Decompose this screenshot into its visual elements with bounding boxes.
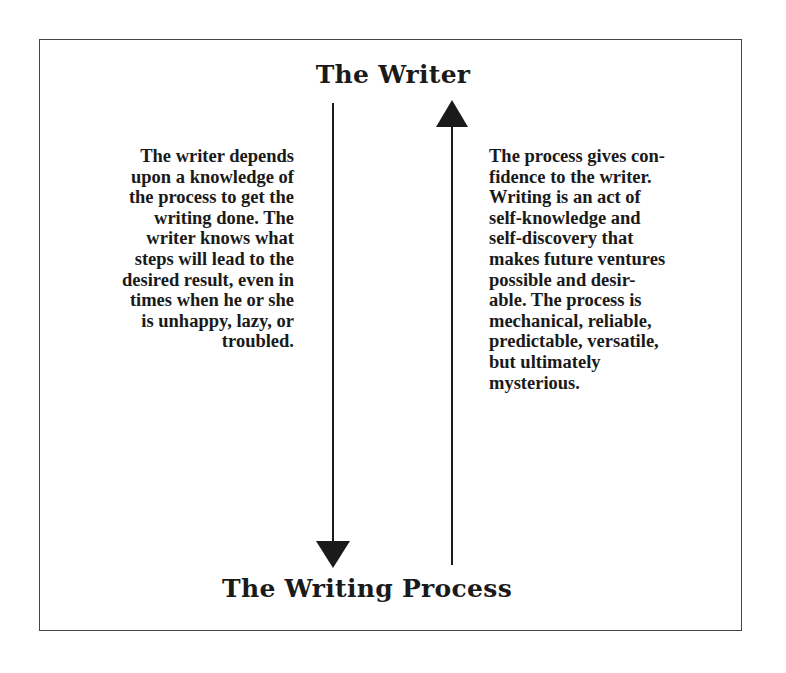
- text-line: writing done. The: [60, 208, 294, 229]
- text-line: troubled.: [60, 331, 294, 352]
- text-line: possible and desir-: [489, 270, 739, 291]
- right-description: The process gives con- fidence to the wr…: [489, 146, 739, 393]
- text-line: makes future ventures: [489, 249, 739, 270]
- text-line: mysterious.: [489, 373, 739, 394]
- text-line: The process gives con-: [489, 146, 739, 167]
- text-line: Writing is an act of: [489, 187, 739, 208]
- text-line: upon a knowledge of: [60, 167, 294, 188]
- up-arrow-icon: [436, 100, 468, 565]
- text-line: able. The process is: [489, 290, 739, 311]
- text-line: but ultimately: [489, 352, 739, 373]
- text-line: mechanical, reliable,: [489, 311, 739, 332]
- down-arrow-icon: [316, 103, 350, 568]
- text-line: desired result, even in: [60, 270, 294, 291]
- text-line: predictable, versatile,: [489, 331, 739, 352]
- text-line: self-knowledge and: [489, 208, 739, 229]
- text-line: times when he or she: [60, 290, 294, 311]
- text-line: self-discovery that: [489, 228, 739, 249]
- left-description: The writer depends upon a knowledge of t…: [60, 146, 294, 352]
- node-the-writing-process: The Writing Process: [222, 574, 512, 603]
- text-line: steps will lead to the: [60, 249, 294, 270]
- text-line: is unhappy, lazy, or: [60, 311, 294, 332]
- text-line: the process to get the: [60, 187, 294, 208]
- text-line: writer knows what: [60, 228, 294, 249]
- text-line: The writer depends: [60, 146, 294, 167]
- text-line: fidence to the writer.: [489, 167, 739, 188]
